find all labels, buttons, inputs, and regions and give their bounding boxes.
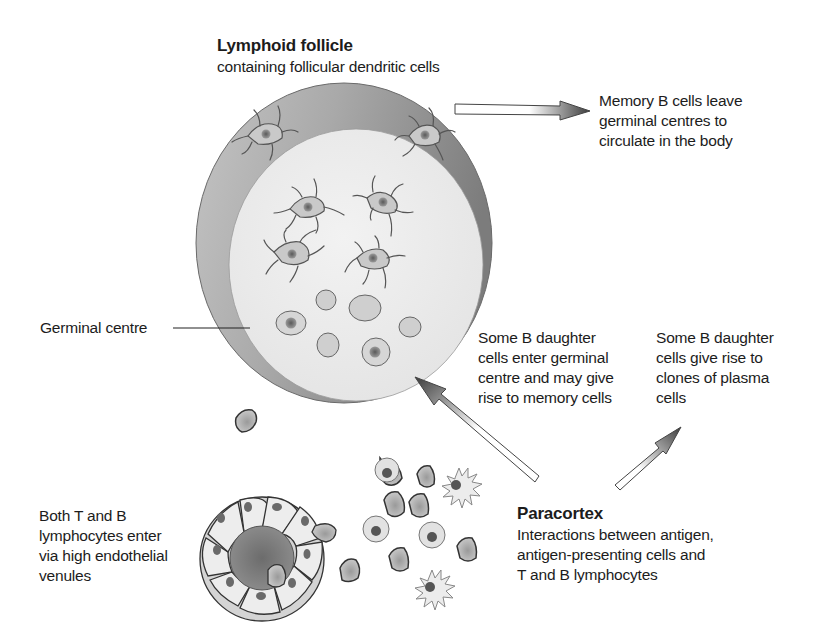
paracortex-cell-cluster bbox=[340, 454, 482, 610]
venules-line-3: via high endothelial bbox=[39, 546, 168, 566]
memory-line-3: circulate in the body bbox=[599, 131, 742, 151]
memory-b-cells-label: Memory B cells leave germinal centres to… bbox=[599, 91, 742, 151]
paracortex-line-3: T and B lymphocytes bbox=[517, 565, 714, 585]
follicle-subtitle: containing follicular dendritic cells bbox=[217, 57, 440, 77]
venules-line-4: venules bbox=[39, 566, 168, 586]
follicle-title: Lymphoid follicle bbox=[217, 35, 440, 57]
daughter-memory-line-4: rise to memory cells bbox=[478, 388, 614, 408]
paracortex-line-2: antigen-presenting cells and bbox=[517, 545, 714, 565]
paracortex-label: Paracortex Interactions between antigen,… bbox=[517, 503, 714, 585]
plasma-clone-arrow bbox=[615, 427, 681, 490]
venules-line-1: Both T and B bbox=[39, 506, 168, 526]
memory-line-1: Memory B cells leave bbox=[599, 91, 742, 111]
germinal-centre-text: Germinal centre bbox=[40, 318, 147, 338]
daughter-memory-line-3: centre and may give bbox=[478, 368, 614, 388]
daughter-memory-line-2: cells enter germinal bbox=[478, 348, 614, 368]
follicle-label: Lymphoid follicle containing follicular … bbox=[217, 35, 440, 77]
lymphocyte bbox=[236, 410, 257, 432]
memory-exit-arrow bbox=[455, 101, 590, 120]
germinal-centre bbox=[229, 129, 483, 401]
daughter-memory-label: Some B daughter cells enter germinal cen… bbox=[478, 328, 614, 408]
venules-line-2: lymphocytes enter bbox=[39, 526, 168, 546]
daughter-plasma-line-2: cells give rise to bbox=[656, 348, 774, 368]
paracortex-title: Paracortex bbox=[517, 503, 714, 525]
daughter-memory-line-1: Some B daughter bbox=[478, 328, 614, 348]
daughter-plasma-line-1: Some B daughter bbox=[656, 328, 774, 348]
paracortex-line-1: Interactions between antigen, bbox=[517, 525, 714, 545]
high-endothelial-venule bbox=[200, 497, 336, 621]
daughter-plasma-line-4: cells bbox=[656, 388, 774, 408]
germinal-centre-label: Germinal centre bbox=[40, 318, 147, 338]
memory-line-2: germinal centres to bbox=[599, 111, 742, 131]
venules-label: Both T and B lymphocytes enter via high … bbox=[39, 506, 168, 586]
daughter-plasma-line-3: clones of plasma bbox=[656, 368, 774, 388]
daughter-plasma-label: Some B daughter cells give rise to clone… bbox=[656, 328, 774, 408]
